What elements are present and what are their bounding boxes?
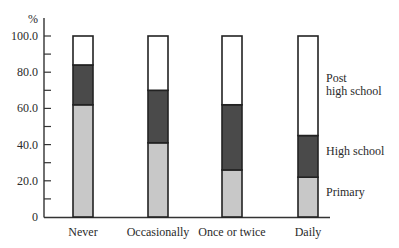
y-tick-label: 40.0 [17,138,38,152]
bar-segment-post-high-school [148,36,168,90]
y-tick-label: 60.0 [17,101,38,115]
legend-label-post-high-school-line1: Post [326,71,347,85]
bar-segment-primary [298,177,318,217]
x-category-label: Never [68,225,97,239]
stacked-bar-chart: %020.040.060.080.0100.0NeverOccasionally… [0,0,399,248]
legend-label-post-high-school-line2: high school [326,84,382,98]
bar-segment-high-school [73,65,93,105]
bar-segment-post-high-school [298,36,318,136]
bar-segment-primary [148,143,168,217]
bar-segment-high-school [298,136,318,178]
x-category-label: Daily [295,225,322,239]
legend-label-high-school: High school [326,144,385,158]
y-axis-unit-label: % [28,12,38,26]
y-tick-label: 100.0 [11,29,38,43]
bar-segment-high-school [148,90,168,142]
y-tick-label: 80.0 [17,65,38,79]
bar-segment-post-high-school [222,36,242,105]
x-category-label: Once or twice [198,225,265,239]
bar-segment-post-high-school [73,36,93,65]
bar-segment-primary [222,170,242,217]
bar-segment-primary [73,105,93,217]
y-tick-label: 0 [32,210,38,224]
bar-segment-high-school [222,105,242,170]
x-category-label: Occasionally [127,225,190,239]
y-tick-label: 20.0 [17,174,38,188]
legend-label-primary: Primary [326,185,365,199]
